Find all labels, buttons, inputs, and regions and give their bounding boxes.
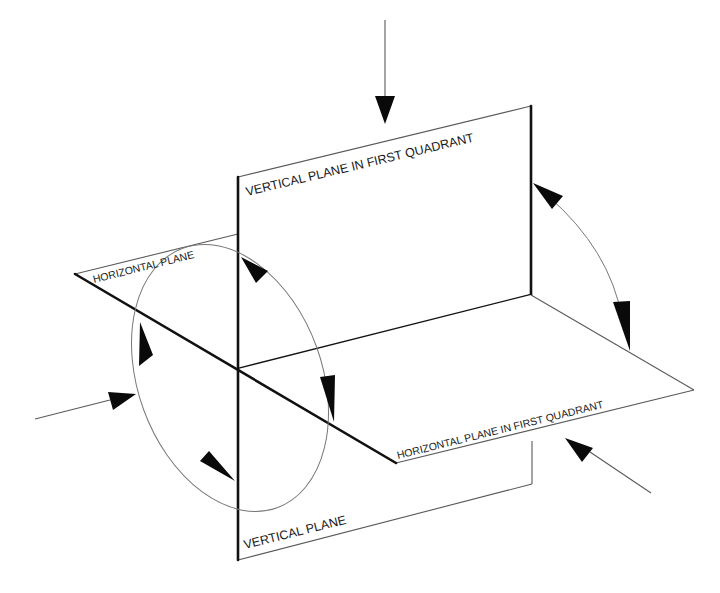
- horizontal-plane-back: [75, 234, 238, 369]
- top-view-arrow: [375, 20, 395, 124]
- arrow-down-icon: [375, 96, 395, 124]
- arrowhead-icon: [139, 322, 153, 366]
- arrow-right-icon: [108, 392, 136, 410]
- projection-planes-diagram: VERTICAL PLANE IN FIRST QUADRANT HORIZON…: [0, 0, 720, 593]
- side-view-arrow: [565, 438, 651, 493]
- front-view-arrow: [35, 392, 136, 419]
- arrow-up-left-icon: [565, 438, 593, 462]
- arrowhead-icon: [200, 451, 235, 481]
- arrowhead-icon: [613, 301, 630, 351]
- diagram-svg: VERTICAL PLANE IN FIRST QUADRANT HORIZON…: [0, 0, 720, 593]
